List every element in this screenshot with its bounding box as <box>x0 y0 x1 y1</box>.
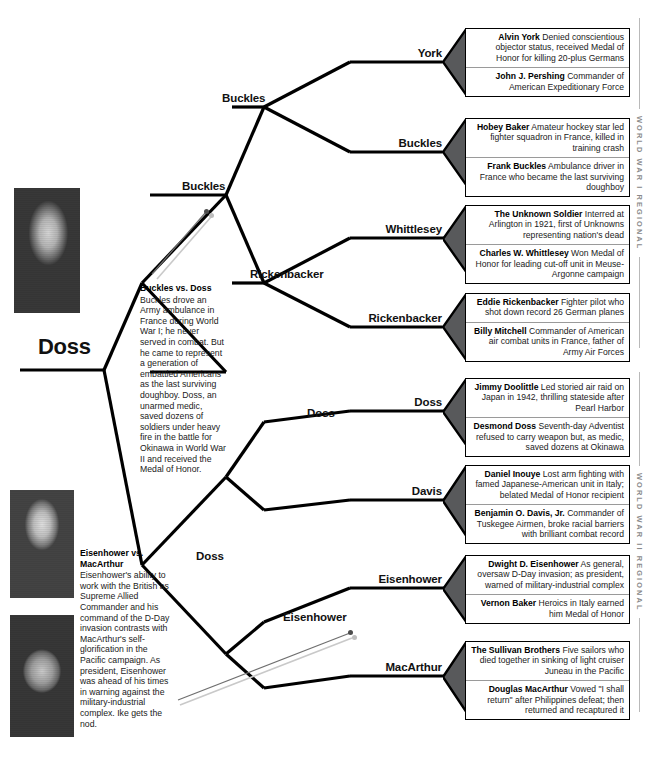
note-title: Eisenhower vs. MacArthur <box>80 548 170 569</box>
leader-dot-eisenhower-shadow <box>352 635 357 640</box>
leader-dot-buckles-shadow <box>209 213 214 218</box>
note-body: Buckles drove an Army ambulance in Franc… <box>140 295 226 475</box>
note-body: Eisenhower's ability to work with the Br… <box>80 570 169 728</box>
leader-dot-buckles <box>204 209 209 214</box>
note-title: Buckles vs. Doss <box>140 283 226 294</box>
bracket-page: Doss Buckles Doss Buckles Rickenbacker D… <box>0 0 653 757</box>
note-eisenhower-vs-macarthur: Eisenhower vs. MacArthur Eisenhower's ab… <box>80 548 170 729</box>
leader-dot-eisenhower <box>348 630 353 635</box>
note-buckles-vs-doss: Buckles vs. Doss Buckles drove an Army a… <box>140 283 226 475</box>
